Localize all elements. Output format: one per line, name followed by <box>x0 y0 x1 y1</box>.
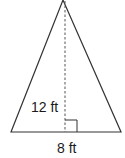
base-label: 8 ft <box>57 141 76 155</box>
right-angle-marker <box>65 120 77 132</box>
triangle-diagram <box>0 0 125 158</box>
height-label: 12 ft <box>31 100 58 114</box>
triangle-outline <box>11 0 121 132</box>
